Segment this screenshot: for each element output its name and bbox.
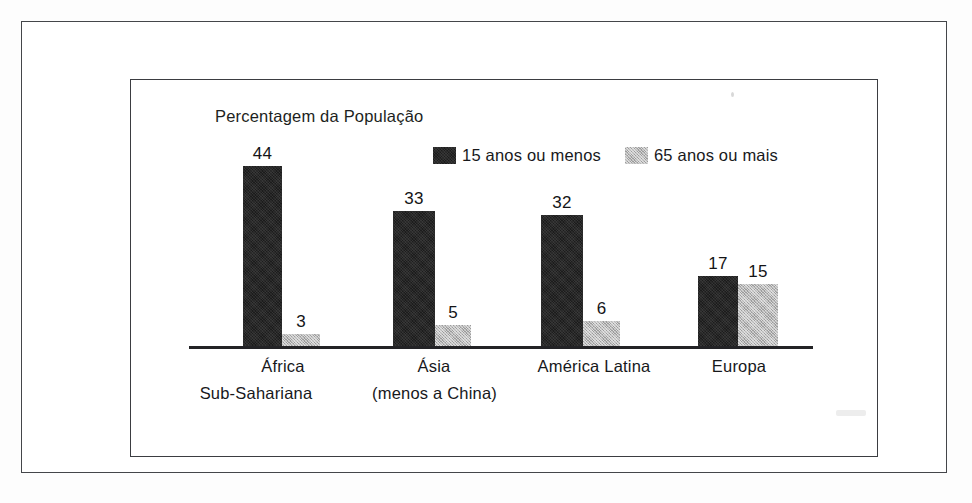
x-axis-line [189, 346, 813, 349]
plot-area: 44 3 33 5 [189, 80, 879, 458]
bar-value-america-latina-old: 6 [597, 300, 607, 317]
category-label-america-latina-line1: América Latina [519, 357, 669, 376]
bar-value-europa-young: 17 [708, 255, 727, 272]
bar-africa-young: 44 [243, 145, 282, 346]
bar-group-asia: 33 5 [393, 190, 471, 346]
bar-africa-old: 3 [282, 313, 320, 346]
bar-rect-america-latina-old [583, 321, 620, 346]
bar-value-europa-old: 15 [748, 263, 767, 280]
bar-group-europa: 17 15 [698, 255, 778, 346]
bar-europa-young: 17 [698, 255, 738, 346]
bar-europa-old: 15 [738, 263, 778, 346]
bar-value-africa-young: 44 [253, 145, 272, 162]
bar-america-latina-old: 6 [583, 300, 620, 346]
bar-rect-europa-young [698, 276, 738, 346]
bar-value-asia-old: 5 [448, 304, 458, 321]
bar-asia-young: 33 [393, 190, 435, 346]
scan-speck [731, 92, 734, 97]
bar-value-america-latina-young: 32 [552, 194, 571, 211]
bar-group-africa: 44 3 [243, 145, 320, 346]
bar-rect-asia-young [393, 211, 435, 346]
scanned-page: Percentagem da População 15 anos ou meno… [0, 0, 972, 503]
bar-value-asia-young: 33 [404, 190, 423, 207]
bar-rect-africa-young [243, 166, 282, 346]
bar-value-africa-old: 3 [296, 313, 306, 330]
category-label-africa-line1: África [223, 357, 343, 376]
category-label-asia-line1: Ásia [379, 357, 489, 376]
bar-rect-europa-old [738, 284, 778, 346]
bar-america-latina-young: 32 [541, 194, 583, 346]
category-label-europa-line1: Europa [684, 357, 794, 376]
chart-panel: Percentagem da População 15 anos ou meno… [130, 79, 878, 457]
bar-group-america-latina: 32 6 [541, 194, 620, 346]
bar-rect-asia-old [435, 325, 471, 346]
category-label-africa-line2: Sub-Sahariana [161, 384, 351, 403]
bar-asia-old: 5 [435, 304, 471, 346]
bar-rect-america-latina-young [541, 215, 583, 346]
bar-rect-africa-old [282, 334, 320, 346]
category-label-asia-line2: (menos a China) [357, 384, 512, 403]
outer-border: Percentagem da População 15 anos ou meno… [21, 21, 947, 473]
scan-speck [836, 410, 866, 416]
